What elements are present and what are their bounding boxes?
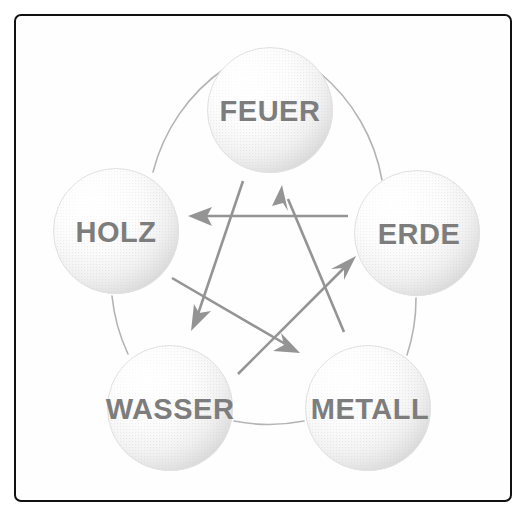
arrow-feuer-to-wasser [191, 181, 243, 331]
element-label-erde: ERDE [378, 218, 461, 250]
arrow-erde-to-holz [188, 207, 348, 226]
arrow-metall-to-feuer [272, 185, 344, 332]
controlling-cycle-arrows [172, 181, 356, 374]
diagram-canvas: FEUER ERDE METALL WASSER [0, 0, 528, 519]
element-node-feuer[interactable]: FEUER [207, 47, 333, 173]
element-label-holz: HOLZ [76, 216, 157, 248]
element-node-erde[interactable]: ERDE [354, 170, 480, 296]
element-node-wasser[interactable]: WASSER [106, 345, 235, 471]
element-label-metall: METALL [311, 393, 429, 425]
element-node-metall[interactable]: METALL [305, 345, 431, 471]
ring-arc-wasser-holz [112, 296, 128, 354]
element-node-holz[interactable]: HOLZ [53, 168, 179, 294]
ring-arc-erde-metall [407, 298, 416, 355]
element-label-wasser: WASSER [106, 393, 235, 425]
five-elements-diagram: FEUER ERDE METALL WASSER [0, 0, 528, 519]
element-label-feuer: FEUER [220, 95, 321, 127]
arrow-holz-to-metall [172, 278, 300, 353]
ring-arc-metall-wasser [234, 421, 304, 424]
